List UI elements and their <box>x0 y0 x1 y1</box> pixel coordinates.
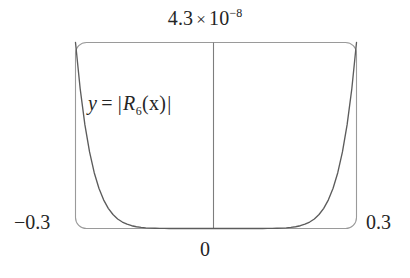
x-axis-max-label: 0.3 <box>366 212 391 232</box>
equation-abs-bar-close: | <box>166 92 172 114</box>
data-curve-r6 <box>76 43 357 229</box>
x-axis-min-label: −0.3 <box>14 212 50 232</box>
equation-argument: (x) <box>142 92 166 114</box>
x-axis-origin-label: 0 <box>0 239 410 259</box>
equation-r-symbol: R <box>123 92 136 114</box>
plot-canvas <box>0 0 410 278</box>
curve-equation-annotation: y=|R6(x)| <box>88 93 172 113</box>
equation-y-symbol: y <box>88 92 97 114</box>
remainder-error-plot-figure: 4.3×10−8 y=|R6(x)| −0.3 0.3 0 <box>0 0 410 278</box>
plot-frame <box>76 43 357 229</box>
equation-equals-sign: = <box>97 92 117 114</box>
